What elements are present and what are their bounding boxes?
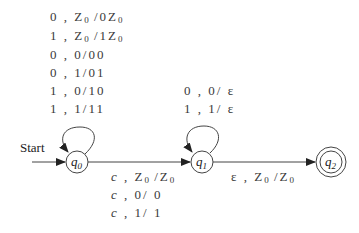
q1-self-loop bbox=[187, 126, 219, 153]
transition-label: 1 , 1/11 bbox=[50, 100, 105, 118]
transition-label: 1 , 0/10 bbox=[50, 82, 105, 100]
transition-label: 0 , 0/ ε bbox=[184, 82, 235, 100]
start-label: Start bbox=[20, 140, 45, 156]
q0-self-loop bbox=[63, 127, 95, 154]
transition-label: 1 , Z0 /1Z0 bbox=[50, 27, 123, 46]
transition-label: c , Z0 /Z0 bbox=[111, 168, 174, 187]
transition-label: 0 , 0/00 bbox=[50, 46, 105, 64]
transition-label: c , 1/ 1 bbox=[111, 204, 162, 222]
transition-label: 1 , 1/ ε bbox=[184, 100, 235, 118]
transition-label: 0 , Z0 /0Z0 bbox=[50, 8, 123, 27]
transition-label: 0 , 1/01 bbox=[50, 64, 105, 82]
transition-label: c , 0/ 0 bbox=[111, 186, 162, 204]
q1-q2-label: ε , Z0 /Z0 bbox=[231, 168, 294, 187]
